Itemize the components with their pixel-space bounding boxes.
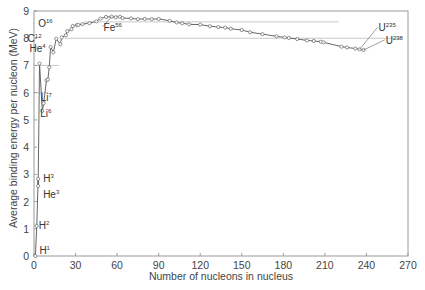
annotation-u238: U238 — [386, 35, 404, 46]
data-point — [312, 39, 315, 42]
y-tick-label: 5 — [23, 114, 29, 126]
data-point — [129, 17, 132, 20]
annotation-he4: He4 — [30, 43, 47, 54]
x-axis-label: Number of nucleons in nucleus — [34, 270, 408, 282]
data-point — [114, 16, 117, 19]
data-point — [362, 48, 365, 51]
data-point — [240, 28, 243, 31]
y-tick-label: 1 — [23, 223, 29, 235]
y-tick-label: 0 — [23, 250, 29, 262]
data-point — [157, 17, 160, 20]
reference-lines — [34, 22, 401, 93]
y-tick-label: 2 — [23, 196, 29, 208]
data-point — [81, 22, 84, 25]
data-series — [34, 15, 365, 257]
data-point — [49, 45, 52, 48]
annotation-li6: Li6 — [40, 108, 52, 119]
data-point — [181, 22, 184, 25]
data-point — [136, 18, 139, 21]
data-point — [354, 47, 357, 50]
data-point — [150, 18, 153, 21]
annotation-he3: He3 — [43, 189, 60, 200]
data-point — [37, 177, 40, 180]
data-point — [64, 34, 67, 37]
data-point — [99, 17, 102, 20]
data-point — [188, 23, 191, 26]
y-tick-label: 4 — [23, 141, 29, 153]
data-point — [60, 36, 63, 39]
annotation-h2: H2 — [39, 220, 50, 231]
data-point — [88, 22, 91, 25]
y-tick-label: 9 — [23, 5, 29, 17]
data-point — [34, 254, 37, 257]
y-tick-label: 7 — [23, 59, 29, 71]
data-point — [248, 31, 251, 34]
annotation-li7: Li7 — [41, 92, 53, 103]
data-point — [283, 36, 286, 39]
data-point — [70, 28, 73, 31]
annotation-leader — [364, 40, 385, 50]
data-point — [95, 20, 98, 23]
annotation-fe56: Fe56 — [104, 22, 123, 33]
data-point — [345, 46, 348, 49]
data-point — [48, 66, 51, 69]
data-point — [104, 15, 107, 18]
binding-energy-curve — [35, 17, 363, 256]
binding-energy-chart: 03060901201501802102402700123456789 H1H2… — [0, 0, 425, 290]
annotation-o16: O16 — [38, 18, 53, 29]
data-point — [229, 27, 232, 30]
data-point — [340, 45, 343, 48]
y-tick-label: 3 — [23, 168, 29, 180]
data-point — [59, 43, 62, 46]
data-point — [121, 16, 124, 19]
data-point — [38, 62, 41, 65]
data-point — [217, 25, 220, 28]
data-point — [261, 33, 264, 36]
data-point — [175, 21, 178, 24]
data-point — [71, 24, 74, 27]
data-point — [52, 51, 55, 54]
data-point — [208, 25, 211, 28]
data-point — [322, 41, 325, 44]
annotations: H1H2H3He3He4Li6Li7C12O16Fe56U235U238 — [28, 17, 404, 256]
y-axis-label: Average binding energy per nucleon (MeV) — [7, 23, 19, 233]
data-point — [296, 37, 299, 40]
data-point — [305, 39, 308, 42]
annotation-h1: H1 — [39, 245, 50, 256]
data-point — [77, 23, 80, 26]
data-point — [287, 36, 290, 39]
data-point — [66, 30, 69, 33]
data-point — [37, 184, 40, 187]
data-point — [46, 78, 49, 81]
data-point — [275, 35, 278, 38]
axes: 03060901201501802102402700123456789 — [23, 5, 417, 271]
annotation-u235: U235 — [379, 22, 397, 33]
data-point — [55, 37, 58, 40]
data-point — [224, 26, 227, 29]
data-point — [168, 19, 171, 22]
data-point — [199, 23, 202, 26]
data-point — [143, 17, 146, 20]
annotation-h3: H3 — [43, 173, 54, 184]
y-tick-label: 6 — [23, 87, 29, 99]
